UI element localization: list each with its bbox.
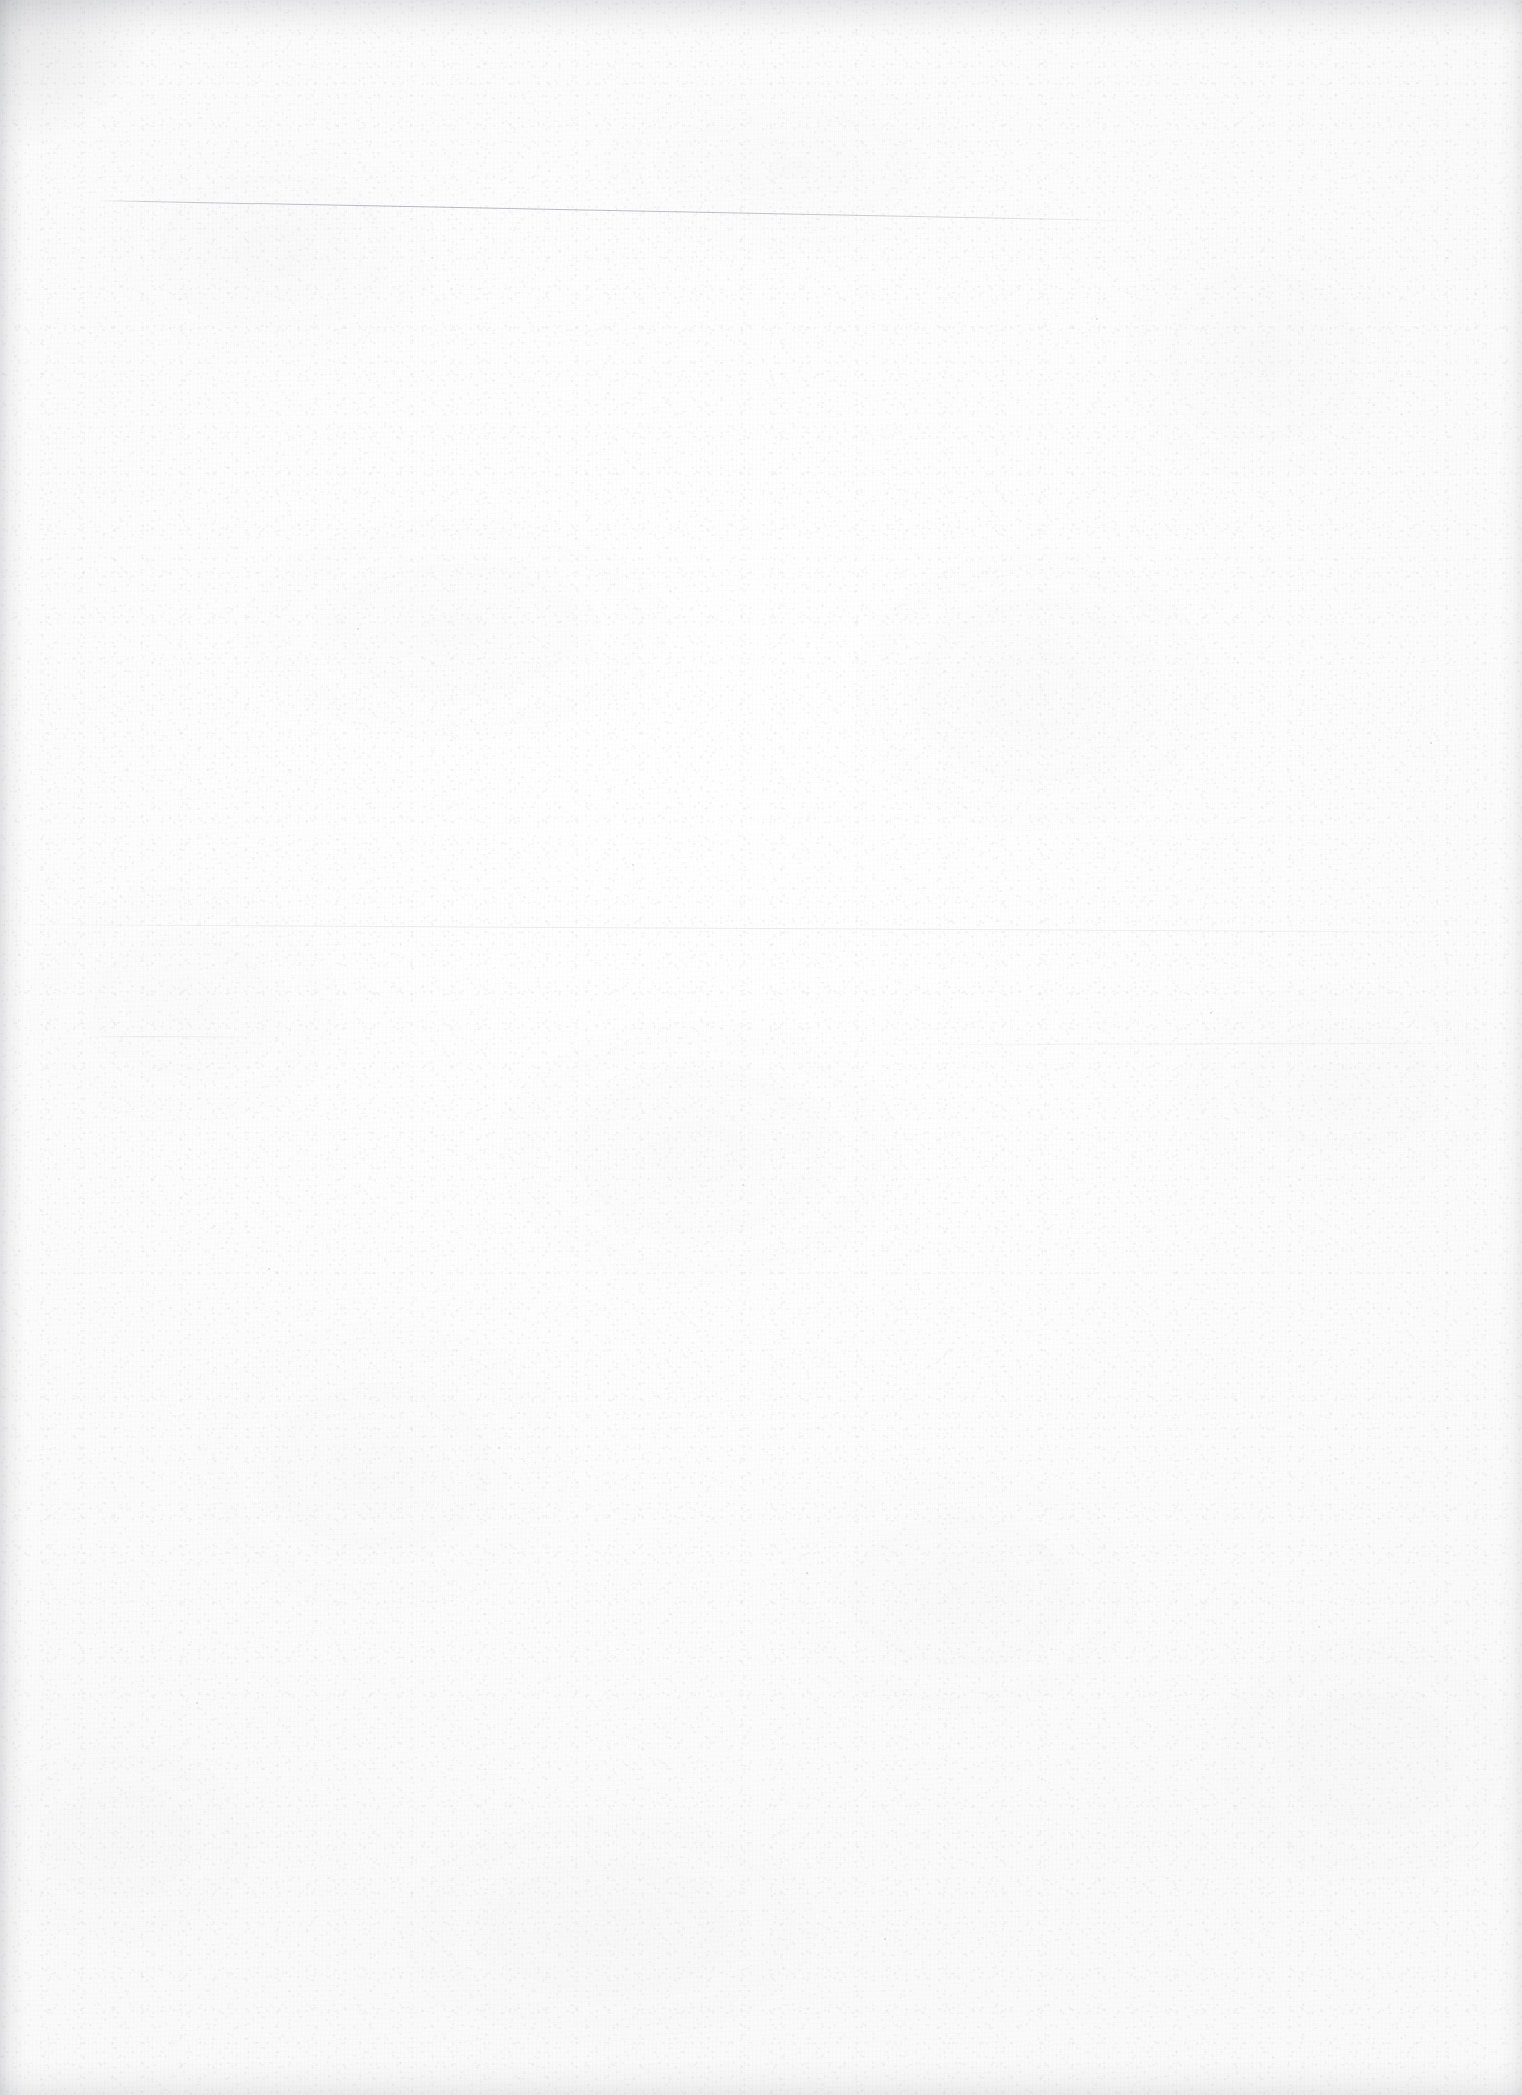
scanned-page [0, 0, 1522, 2095]
right-edge-shadow [1500, 0, 1522, 2095]
paper-fine-grain [0, 0, 1522, 2095]
top-edge-shadow [0, 0, 1522, 42]
paper-speck [1318, 1626, 1320, 1628]
paper-speck [806, 1572, 808, 1574]
paper-speck [1096, 318, 1098, 320]
paper-speck [632, 864, 634, 866]
paper-speck [1210, 1012, 1212, 1014]
paper-speck [357, 628, 359, 630]
left-edge-shadow [0, 0, 26, 2095]
bottom-edge-shadow [0, 2061, 1522, 2095]
paper-speck [884, 1938, 886, 1940]
top-left-corner-shadow [0, 0, 150, 150]
paper-speck [1430, 742, 1432, 744]
paper-speck [268, 1268, 270, 1270]
